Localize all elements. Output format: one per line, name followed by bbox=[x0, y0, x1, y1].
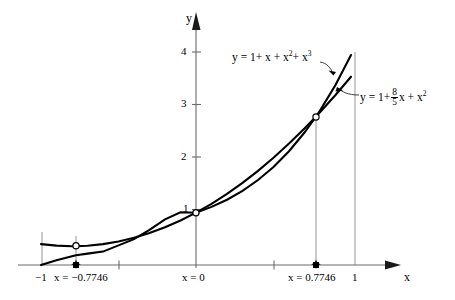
fraction-numerator: 8 bbox=[391, 88, 398, 98]
annotation-cubic-prefix: y = 1+ x + x bbox=[232, 51, 289, 63]
y-tick-label-1: 1 bbox=[183, 203, 189, 214]
x-label-minus-1: −1 bbox=[35, 272, 47, 283]
y-tick-label-3: 3 bbox=[181, 98, 187, 109]
intersection-marker-origin bbox=[193, 210, 199, 216]
annotation-quadratic-equation: y = 1+85x + x2 bbox=[360, 88, 426, 109]
leader-arrowhead-cubic bbox=[329, 71, 337, 76]
x-label-zero: x = 0 bbox=[182, 272, 205, 283]
annotation-cubic-exponent-3: 3 bbox=[308, 49, 312, 58]
y-axis-arrowhead bbox=[192, 12, 201, 30]
x-label-07746: x = 0.7746 bbox=[288, 272, 335, 283]
x-label-1: 1 bbox=[352, 272, 358, 283]
axis-star-minus-07746 bbox=[71, 260, 81, 270]
annotation-quadratic-prefix: y = 1+ bbox=[360, 91, 390, 103]
y-axis-label: y bbox=[186, 12, 192, 24]
guide-lines bbox=[42, 52, 355, 265]
x-axis-label: x bbox=[404, 271, 410, 283]
x-label-minus-07746: x = −0.7746 bbox=[54, 272, 108, 283]
annotation-cubic-mid: + x bbox=[293, 51, 308, 63]
annotation-quadratic-fraction: 85 bbox=[391, 88, 398, 109]
y-tick-label-2: 2 bbox=[181, 151, 187, 162]
annotation-quadratic-mid: x + x bbox=[399, 91, 423, 103]
annotation-quadratic-exponent: 2 bbox=[423, 89, 427, 98]
axes-group bbox=[18, 12, 401, 270]
intersection-marker-right bbox=[313, 114, 319, 120]
polynomial-comparison-figure: 4 3 2 1 y x −1 x = −0.7746 x = 0 x = 0.7… bbox=[0, 0, 455, 300]
axis-star-07746 bbox=[311, 260, 321, 270]
annotation-cubic-equation: y = 1+ x + x2+ x3 bbox=[232, 52, 311, 64]
figure-canvas bbox=[0, 0, 455, 300]
intersection-marker-left bbox=[73, 243, 79, 249]
y-tick-label-4: 4 bbox=[181, 46, 187, 57]
fraction-denominator: 5 bbox=[391, 97, 398, 108]
x-axis-arrowhead bbox=[385, 261, 401, 270]
